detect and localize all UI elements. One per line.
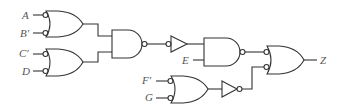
input-label-e: E	[182, 55, 189, 66]
input-label-d: D	[22, 66, 30, 77]
wires-or-to-nand	[83, 24, 112, 62]
nand-gate-2	[193, 38, 264, 66]
not-gate-1	[222, 67, 264, 97]
output-label-z: Z	[320, 55, 326, 66]
input-label-f-prime: F′	[142, 75, 151, 86]
or-gate-1	[33, 11, 83, 37]
or-gate-2	[33, 49, 83, 76]
input-label-g: G	[145, 92, 153, 103]
input-label-a: A	[22, 10, 29, 21]
input-label-c-prime: C′	[19, 48, 29, 59]
circuit-drawing	[0, 0, 342, 110]
or-gate-3	[156, 76, 222, 103]
buffer-1	[166, 36, 204, 52]
logic-circuit-diagram: A B′ C′ D E F′ G Z	[0, 0, 342, 110]
or-gate-4	[264, 46, 317, 74]
nand-gate-1	[112, 30, 166, 58]
input-label-b-prime: B′	[20, 28, 29, 39]
